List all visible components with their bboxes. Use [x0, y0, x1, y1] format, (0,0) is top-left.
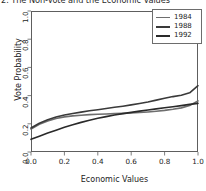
legend-line-swatch	[156, 26, 170, 28]
y-axis-label: Vote Probability	[14, 20, 23, 120]
legend-item-label: 1988	[174, 22, 192, 31]
legend-item: 1984	[156, 13, 198, 22]
legend-item-label: 1984	[174, 13, 192, 22]
legend-line-swatch	[156, 35, 170, 37]
legend-item-label: 1992	[174, 31, 192, 40]
chart-figure: 2. The Non-Vote and the Economic Values …	[0, 0, 206, 191]
x-tick-label: 0.6	[120, 157, 142, 166]
x-axis-label: Economic Values	[31, 175, 198, 184]
legend-item: 1988	[156, 22, 198, 31]
legend-item: 1992	[156, 31, 198, 40]
x-tick-label: 0.4	[87, 157, 109, 166]
x-tick-label: 0.2	[53, 157, 75, 166]
x-tick-label: 0.0	[20, 157, 42, 166]
legend-box: 1984 1988 1992	[152, 9, 202, 44]
x-tick-label: 1.0	[187, 157, 206, 166]
legend-line-swatch	[156, 17, 170, 18]
x-tick-label: 0.8	[154, 157, 176, 166]
chart-title: 2. The Non-Vote and the Economic Values	[1, 0, 206, 5]
y-tick-label: 0.2	[21, 124, 30, 144]
